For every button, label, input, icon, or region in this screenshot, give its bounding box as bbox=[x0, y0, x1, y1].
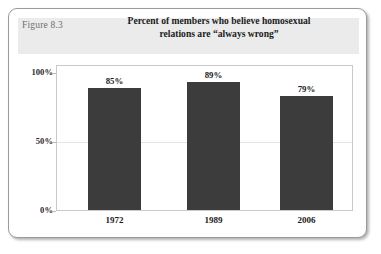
bar-1989[interactable] bbox=[187, 82, 240, 210]
x-axis-label-1972: 1972 bbox=[88, 215, 141, 225]
y-axis-tick-label-50: 50% bbox=[36, 136, 53, 146]
bars-layer: 85% 89% 79% bbox=[56, 65, 353, 211]
y-axis-tickmark-0 bbox=[52, 211, 56, 212]
x-axis: 1972 1989 2006 bbox=[56, 215, 353, 231]
y-axis-tick-label-0: 0% bbox=[40, 205, 53, 215]
bar-2006[interactable] bbox=[280, 96, 333, 210]
x-axis-label-2006: 2006 bbox=[280, 215, 333, 225]
y-axis-tick-label-100: 100% bbox=[32, 67, 53, 77]
x-axis-label-1989: 1989 bbox=[187, 215, 240, 225]
bar-value-label-1972: 85% bbox=[88, 76, 141, 86]
bar-value-label-1989: 89% bbox=[187, 70, 240, 80]
bar-chart: 100% 50% 0% 85% 89% 79% bbox=[9, 9, 368, 239]
bar-value-label-2006: 79% bbox=[280, 84, 333, 94]
bar-1972[interactable] bbox=[88, 88, 141, 210]
y-axis: 100% 50% 0% bbox=[17, 9, 53, 239]
figure-card: Figure 8.3 Percent of members who believ… bbox=[8, 8, 367, 238]
